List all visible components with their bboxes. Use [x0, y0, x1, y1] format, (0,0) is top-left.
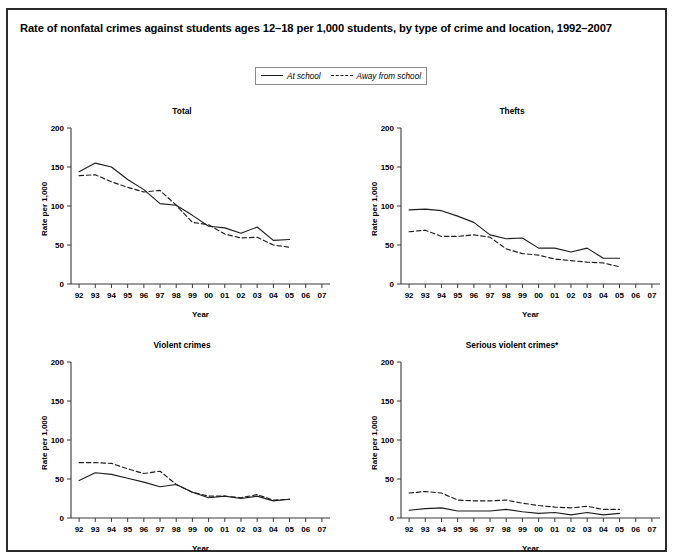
svg-text:95: 95	[123, 291, 132, 300]
svg-text:95: 95	[453, 525, 462, 534]
svg-text:03: 03	[583, 525, 592, 534]
svg-text:06: 06	[301, 525, 310, 534]
svg-text:50: 50	[55, 241, 64, 250]
svg-text:99: 99	[188, 525, 197, 534]
svg-text:01: 01	[550, 525, 559, 534]
svg-text:04: 04	[599, 291, 608, 300]
svg-text:150: 150	[51, 397, 65, 406]
chart-panel-serious-violent-crimes: Serious violent crimes*05010015020092939…	[352, 340, 672, 556]
svg-text:50: 50	[385, 241, 394, 250]
svg-text:95: 95	[453, 291, 462, 300]
svg-text:93: 93	[91, 525, 100, 534]
svg-text:05: 05	[285, 525, 294, 534]
svg-text:97: 97	[156, 291, 165, 300]
dashed-line-swatch	[331, 75, 353, 77]
svg-text:06: 06	[631, 525, 640, 534]
svg-text:96: 96	[469, 291, 478, 300]
x-axis-label: Year	[71, 544, 330, 553]
svg-text:02: 02	[237, 291, 246, 300]
svg-text:01: 01	[220, 291, 229, 300]
y-axis-label: Rate per 1,000	[40, 182, 49, 236]
svg-text:00: 00	[534, 525, 543, 534]
svg-text:04: 04	[269, 525, 278, 534]
chart-legend: At school Away from school	[255, 67, 427, 85]
y-axis-label: Rate per 1,000	[370, 416, 379, 470]
svg-text:99: 99	[518, 525, 527, 534]
svg-text:05: 05	[615, 525, 624, 534]
svg-text:92: 92	[75, 291, 84, 300]
svg-text:94: 94	[107, 291, 116, 300]
svg-text:50: 50	[55, 475, 64, 484]
chart-panel-thefts: Thefts0501001502009293949596979899000102…	[352, 106, 672, 322]
svg-text:05: 05	[285, 291, 294, 300]
svg-text:150: 150	[381, 397, 395, 406]
svg-text:96: 96	[139, 291, 148, 300]
svg-text:150: 150	[381, 163, 395, 172]
svg-text:94: 94	[107, 525, 116, 534]
legend-entry-at-school: At school	[261, 72, 321, 81]
svg-text:0: 0	[60, 514, 65, 523]
svg-text:97: 97	[486, 291, 495, 300]
svg-text:0: 0	[60, 280, 65, 289]
cut-off-header-text	[6, 0, 126, 6]
chart-panel-total: Total05010015020092939495969798990001020…	[22, 106, 342, 322]
x-axis-label: Year	[401, 310, 660, 319]
svg-text:97: 97	[156, 525, 165, 534]
svg-text:94: 94	[437, 525, 446, 534]
svg-text:99: 99	[518, 291, 527, 300]
y-axis-label: Rate per 1,000	[40, 416, 49, 470]
legend-entry-away-from-school: Away from school	[331, 72, 421, 81]
svg-text:01: 01	[550, 291, 559, 300]
figure-container: Rate of nonfatal crimes against students…	[6, 8, 667, 552]
legend-label-at-school: At school	[287, 72, 321, 81]
x-axis-label: Year	[401, 544, 660, 553]
svg-text:01: 01	[220, 525, 229, 534]
svg-text:200: 200	[381, 358, 395, 367]
svg-text:200: 200	[381, 124, 395, 133]
svg-text:98: 98	[172, 291, 181, 300]
svg-text:07: 07	[317, 525, 326, 534]
svg-text:00: 00	[204, 525, 213, 534]
figure-title: Rate of nonfatal crimes against students…	[20, 22, 660, 34]
svg-text:96: 96	[469, 525, 478, 534]
svg-text:06: 06	[301, 291, 310, 300]
legend-label-away-from-school: Away from school	[357, 72, 421, 81]
solid-line-swatch	[261, 75, 283, 77]
svg-text:92: 92	[405, 291, 414, 300]
svg-text:100: 100	[381, 436, 395, 445]
svg-text:100: 100	[51, 202, 65, 211]
svg-text:06: 06	[631, 291, 640, 300]
svg-text:93: 93	[421, 291, 430, 300]
svg-text:0: 0	[390, 280, 395, 289]
svg-text:0: 0	[390, 514, 395, 523]
svg-text:200: 200	[51, 124, 65, 133]
svg-text:98: 98	[502, 525, 511, 534]
svg-text:50: 50	[385, 475, 394, 484]
svg-text:07: 07	[647, 525, 656, 534]
svg-text:03: 03	[583, 291, 592, 300]
svg-text:03: 03	[253, 525, 262, 534]
svg-text:99: 99	[188, 291, 197, 300]
svg-text:04: 04	[599, 525, 608, 534]
svg-text:04: 04	[269, 291, 278, 300]
svg-text:92: 92	[405, 525, 414, 534]
svg-text:98: 98	[172, 525, 181, 534]
svg-text:94: 94	[437, 291, 446, 300]
svg-text:05: 05	[615, 291, 624, 300]
chart-panel-violent-crimes: Violent crimes05010015020092939495969798…	[22, 340, 342, 556]
svg-text:93: 93	[421, 525, 430, 534]
svg-text:98: 98	[502, 291, 511, 300]
x-axis-label: Year	[71, 310, 330, 319]
svg-text:100: 100	[51, 436, 65, 445]
svg-text:02: 02	[567, 525, 576, 534]
y-axis-label: Rate per 1,000	[370, 182, 379, 236]
svg-text:00: 00	[204, 291, 213, 300]
svg-text:07: 07	[317, 291, 326, 300]
svg-text:200: 200	[51, 358, 65, 367]
svg-text:02: 02	[237, 525, 246, 534]
svg-text:00: 00	[534, 291, 543, 300]
svg-text:150: 150	[51, 163, 65, 172]
svg-text:100: 100	[381, 202, 395, 211]
svg-text:95: 95	[123, 525, 132, 534]
svg-text:97: 97	[486, 525, 495, 534]
